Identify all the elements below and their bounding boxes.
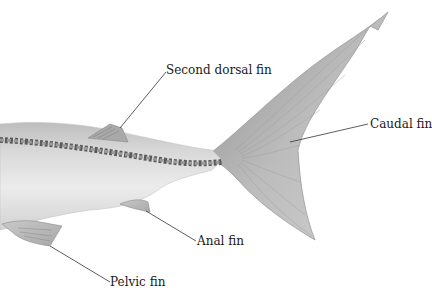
label-anal-fin: Anal fin	[197, 234, 244, 248]
shark-tail-diagram: Second dorsal fin Caudal fin Anal fin Pe…	[0, 0, 432, 298]
caudal-fin-shape	[212, 12, 388, 240]
shark-illustration	[0, 0, 432, 298]
label-caudal-fin: Caudal fin	[370, 117, 432, 131]
label-second-dorsal-fin: Second dorsal fin	[166, 63, 272, 77]
label-pelvic-fin: Pelvic fin	[110, 275, 165, 289]
